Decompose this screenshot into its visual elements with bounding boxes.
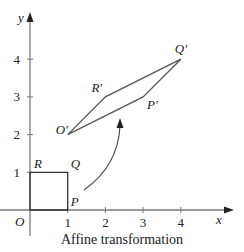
shapes — [30, 59, 181, 210]
x-axis-arrow-icon — [224, 207, 234, 214]
point-label-r: R — [33, 156, 42, 171]
y-tick-label: 4 — [14, 52, 21, 67]
point-label-p: P — [70, 194, 79, 209]
mapping-arrowhead-icon — [117, 118, 124, 128]
point-label-r-prime: R' — [90, 80, 102, 95]
x-axis-label: x — [215, 212, 222, 227]
transformed-parallelogram — [68, 59, 181, 134]
y-tick-label: 1 — [14, 165, 21, 180]
y-tick-label: 2 — [14, 127, 21, 142]
y-axis-arrow-icon — [27, 12, 34, 22]
x-tick-label: 1 — [64, 215, 71, 230]
origin-label: O — [15, 214, 25, 229]
point-label-q-prime: Q' — [175, 41, 187, 56]
x-tick-label: 2 — [102, 215, 109, 230]
unit-square — [30, 172, 68, 210]
y-tick-label: 3 — [14, 89, 21, 104]
point-label-q: Q — [71, 156, 81, 171]
point-label-o-prime: O' — [56, 122, 68, 137]
figure-caption: Affine transformation — [0, 232, 244, 248]
labels: 12341234xyOPQRO'P'Q'R' — [14, 10, 223, 230]
y-axis-label: y — [16, 10, 24, 25]
mapping-arrow — [84, 126, 120, 190]
x-tick-label: 4 — [178, 215, 185, 230]
x-tick-label: 3 — [140, 215, 147, 230]
point-label-p-prime: P' — [146, 97, 158, 112]
axes — [0, 12, 234, 236]
affine-diagram: 12341234xyOPQRO'P'Q'R' — [0, 0, 244, 252]
